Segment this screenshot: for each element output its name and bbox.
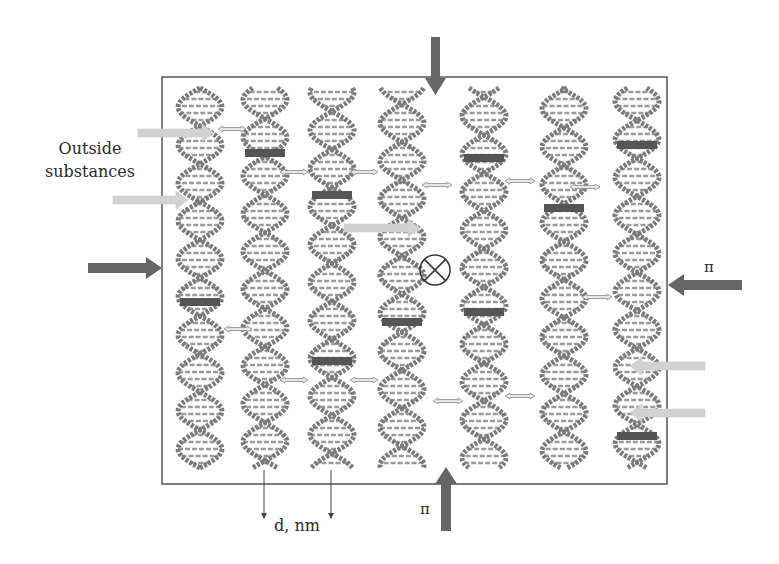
pressure-arrow-top xyxy=(425,37,446,95)
intercalated-ligand-bar xyxy=(312,357,352,365)
outside-arrow-left-2 xyxy=(113,191,188,209)
intercalated-ligand-bar xyxy=(464,308,504,316)
intercalated-ligand-bar xyxy=(180,298,220,306)
spacing-double-arrow xyxy=(280,377,308,383)
pressure-arrow-left xyxy=(88,257,162,279)
intercalated-ligand-bar xyxy=(312,191,352,199)
intercalated-ligand-bar xyxy=(617,432,657,440)
pressure-arrow-bottom xyxy=(435,467,457,531)
intercalated-ligand-bar xyxy=(245,149,285,157)
pressure-arrow-right xyxy=(668,274,742,296)
intercalated-ligand-bar xyxy=(382,318,422,326)
spacing-double-arrow xyxy=(433,398,463,404)
dna-helix-6 xyxy=(542,88,586,468)
dna-helix-1 xyxy=(178,88,222,468)
dna-helices xyxy=(178,88,659,468)
outside-arrow-left-1 xyxy=(138,124,214,142)
outside-label-line2: substances xyxy=(34,160,146,183)
dna-dispersion-diagram xyxy=(0,0,779,564)
spacing-double-arrow xyxy=(224,326,252,332)
osmotic-pressure-label-bottom: π xyxy=(420,500,430,518)
dna-helix-2 xyxy=(243,88,287,468)
dna-helix-5 xyxy=(462,88,506,468)
osmotic-pressure-label-right: π xyxy=(704,258,714,276)
distance-indicator xyxy=(264,470,331,518)
spacing-double-arrow xyxy=(505,178,535,184)
spacing-double-arrow xyxy=(505,393,535,399)
spacing-double-arrow xyxy=(280,169,308,175)
intercalated-ligand-bar xyxy=(544,204,584,212)
distance-label: d, nm xyxy=(274,516,320,535)
spacing-double-arrow xyxy=(350,377,378,383)
outside-label-line1: Outside xyxy=(34,137,146,160)
dna-helix-4 xyxy=(380,88,424,468)
spacing-double-arrow xyxy=(218,126,246,132)
dna-helix-3 xyxy=(310,88,354,468)
intercalated-ligand-bar xyxy=(464,154,504,162)
spacing-double-arrow xyxy=(582,294,612,300)
outside-substances-label: Outside substances xyxy=(34,137,146,183)
spacing-double-arrow xyxy=(422,182,452,188)
spacing-double-arrow xyxy=(350,169,378,175)
intercalated-ligand-bar xyxy=(617,141,657,149)
